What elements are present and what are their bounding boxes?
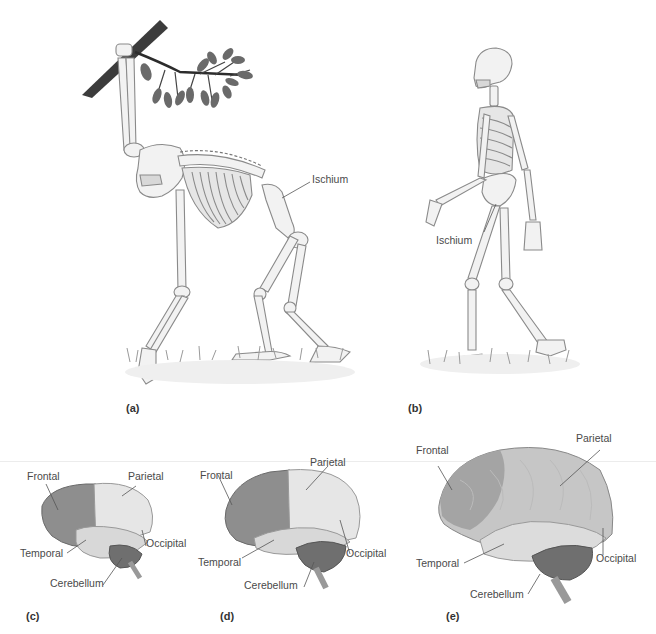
ischium-leader-a (282, 182, 310, 198)
human-skeleton-illustration (400, 0, 656, 420)
caption-a: (a) (126, 402, 139, 414)
label-cerebellum-c: Cerebellum (50, 577, 104, 589)
panel-d-brain-medium: Frontal Parietal Temporal Occipital Cere… (190, 450, 400, 634)
panel-c-brain-small: Frontal Parietal Temporal Occipital Cere… (0, 450, 195, 634)
label-temporal-c: Temporal (20, 547, 63, 559)
ape-skeleton-illustration (0, 0, 380, 420)
label-cerebellum-e: Cerebellum (470, 588, 524, 600)
caption-c: (c) (26, 610, 39, 622)
caption-d: (d) (220, 610, 234, 622)
label-occipital-d: Occipital (346, 547, 386, 559)
label-temporal-e: Temporal (416, 557, 459, 569)
panel-e-brain-large: Frontal Parietal Temporal Occipital Cere… (400, 430, 656, 634)
label-frontal-d: Frontal (200, 469, 233, 481)
ape-bones (116, 44, 350, 384)
caption-e: (e) (446, 610, 459, 622)
brain-e-illustration (400, 430, 656, 634)
caption-b: (b) (408, 402, 422, 414)
panel-a-ape-skeleton: Ischium (a) (0, 0, 380, 420)
panel-b-human-skeleton: Ischium (b) (400, 0, 656, 420)
label-temporal-d: Temporal (198, 556, 241, 568)
label-parietal-c: Parietal (128, 470, 164, 482)
label-frontal-c: Frontal (27, 470, 60, 482)
label-occipital-e: Occipital (596, 552, 636, 564)
label-cerebellum-d: Cerebellum (244, 579, 298, 591)
label-occipital-c: Occipital (146, 537, 186, 549)
label-ischium-b: Ischium (436, 234, 472, 246)
label-parietal-d: Parietal (310, 456, 346, 468)
label-ischium-a: Ischium (312, 173, 348, 185)
label-frontal-e: Frontal (416, 444, 449, 456)
label-parietal-e: Parietal (576, 432, 612, 444)
tree-branch-icon (82, 20, 254, 109)
